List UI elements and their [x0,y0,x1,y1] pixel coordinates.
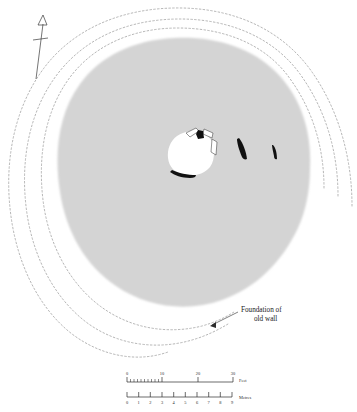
scalebar-metres-label-1: 1 [138,400,140,405]
scalebar-feet-minor-ticks [131,379,159,382]
foundation-label-line2: old wall [254,315,277,323]
scalebar-metres-label-7: 7 [208,400,211,405]
scalebar-feet: 0 10 20 30 Feet [126,371,247,383]
scalebar-metres-label-2: 2 [149,400,151,405]
north-arrow [33,15,48,79]
scalebar-metres-label-6: 6 [196,400,199,405]
scalebar-metres: 0 1 2 3 4 5 6 7 8 9 Metres [126,392,252,405]
scalebar-feet-unit: Feet [239,378,247,383]
slab-outlined-right [211,139,217,155]
scalebar-feet-label-0: 0 [126,371,129,376]
scalebar-feet-label-10: 10 [160,371,165,376]
site-plan-figure: Foundation of old wall 0 [0,0,357,412]
scalebar-metres-unit: Metres [239,395,251,400]
foundation-label-line1: Foundation of [241,306,282,314]
scalebar-feet-label-20: 20 [196,371,201,376]
scalebar-metres-label-5: 5 [184,400,187,405]
central-chamber [168,131,214,175]
scalebar-metres-label-4: 4 [173,400,176,405]
scalebar-metres-label-0: 0 [126,400,129,405]
scalebar-feet-label-30: 30 [231,371,236,376]
scalebar-metres-ticks [127,392,232,397]
foundation-leader-arrowhead-icon [210,322,216,328]
north-arrow-crossbar [33,38,48,40]
north-arrow-head-icon [38,15,47,25]
site-plan-canvas: Foundation of old wall 0 [0,0,357,412]
scalebar-metres-label-9: 9 [231,400,234,405]
scalebar-metres-label-8: 8 [219,400,222,405]
scalebar-metres-label-3: 3 [161,400,164,405]
foundation-annotation-group: Foundation of old wall [210,306,282,328]
